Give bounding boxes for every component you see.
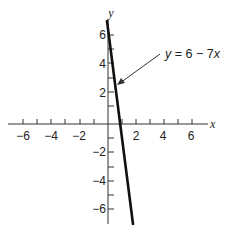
y-tick-label: −2 [92, 145, 106, 159]
annotation-arrow [117, 54, 160, 85]
x-tick-label: 4 [160, 129, 167, 143]
y-tick-label: 6 [99, 28, 106, 42]
x-tick-label: 2 [133, 129, 140, 143]
x-tick-label: 6 [188, 129, 195, 143]
y-axis-label: y [107, 6, 114, 20]
series-line [107, 21, 133, 224]
y-tick-label: −4 [92, 174, 106, 188]
equation-body: = 6 − 7 [171, 47, 213, 61]
x-tick-labels: −6 −4 −2 2 4 6 [16, 129, 195, 143]
y-tick-label: −6 [92, 202, 106, 216]
x-tick-label: −2 [72, 129, 86, 143]
equation-label: y = 6 − 7x [164, 47, 221, 61]
x-axis-label: x [209, 117, 216, 131]
y-tick-label: 2 [99, 86, 106, 100]
equation-x: x [213, 47, 221, 61]
x-tick-label: −6 [16, 129, 30, 143]
x-tick-label: −4 [44, 129, 58, 143]
chart-canvas: −6 −4 −2 2 4 6 6 4 2 −2 −4 −6 y x y = 6 … [0, 0, 229, 228]
y-tick-label: 4 [99, 57, 106, 71]
